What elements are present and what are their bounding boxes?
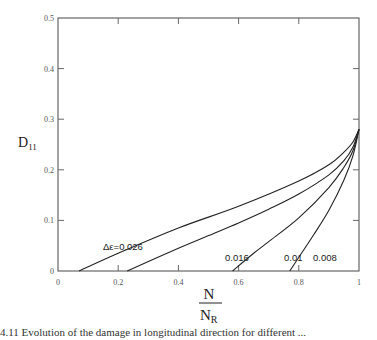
y-axis-title: D11 bbox=[18, 135, 37, 152]
x-axis-title-den-main: N bbox=[200, 307, 211, 323]
curve-label: Δε=0.026 bbox=[103, 241, 143, 252]
y-tick-label: 0.1 bbox=[44, 216, 54, 225]
curve-label: 0.008 bbox=[313, 252, 337, 263]
x-tick-label: 1 bbox=[357, 278, 361, 287]
x-axis-title-den-sub: R bbox=[211, 314, 218, 325]
figure-caption: 4.11 Evolution of the damage in longitud… bbox=[0, 326, 377, 340]
plot-frame bbox=[58, 18, 359, 271]
damage-curve bbox=[290, 129, 359, 271]
curve-label: 0.016 bbox=[225, 252, 249, 263]
damage-curve bbox=[233, 129, 359, 271]
x-tick-label: 0.2 bbox=[113, 278, 123, 287]
y-tick-label: 0.4 bbox=[44, 65, 54, 74]
damage-curve bbox=[127, 129, 359, 271]
x-tick-label: 0.6 bbox=[234, 278, 244, 287]
y-axis-title-main: D bbox=[18, 135, 28, 150]
y-tick-label: 0 bbox=[50, 267, 54, 276]
x-axis-title-denominator: NR bbox=[200, 307, 218, 325]
x-axis-title: N NR bbox=[199, 286, 222, 325]
x-axis-title-numerator: N bbox=[204, 286, 215, 302]
x-tick-label: 0.4 bbox=[173, 278, 183, 287]
curve-labels: Δε=0.0260.0160.010.008 bbox=[103, 241, 337, 263]
y-tick-label: 0.2 bbox=[44, 166, 54, 175]
y-axis-title-sub: 11 bbox=[28, 142, 37, 152]
x-tick-label: 0.8 bbox=[294, 278, 304, 287]
axis-tick-labels: 00.20.40.60.8100.10.20.30.40.5 bbox=[44, 14, 361, 287]
axis-ticks bbox=[58, 18, 359, 271]
y-tick-label: 0.5 bbox=[44, 14, 54, 23]
curve-label: 0.01 bbox=[284, 252, 303, 263]
plot-border bbox=[58, 18, 359, 271]
y-tick-label: 0.3 bbox=[44, 115, 54, 124]
x-tick-label: 0 bbox=[56, 278, 60, 287]
